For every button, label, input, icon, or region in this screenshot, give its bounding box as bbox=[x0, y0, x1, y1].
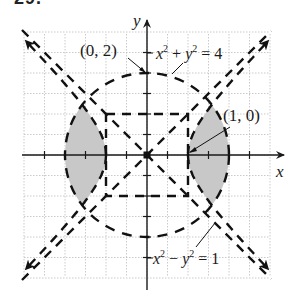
point-label-1-0: (1, 0) bbox=[223, 106, 260, 125]
hyperbola-equation-label: x2 − y2 = 1 bbox=[147, 248, 219, 268]
x-axis-label: x bbox=[275, 162, 284, 181]
svg-text:x2 + y2 = 4: x2 + y2 = 4 bbox=[155, 43, 222, 63]
graph-figure: y x (0, 2) x2 + y2 = 4 (1, 0) x2 − y2 = … bbox=[0, 0, 296, 297]
y-axis-label: y bbox=[131, 11, 141, 30]
pointer-circle-eq bbox=[172, 63, 183, 74]
pointer-hyperbola-eq bbox=[196, 223, 215, 247]
svg-text:x2 − y2 = 1: x2 − y2 = 1 bbox=[152, 248, 219, 268]
circle-equation-label: x2 + y2 = 4 bbox=[147, 43, 222, 63]
point-label-0-2: (0, 2) bbox=[80, 41, 117, 60]
origin-marker bbox=[144, 152, 151, 159]
